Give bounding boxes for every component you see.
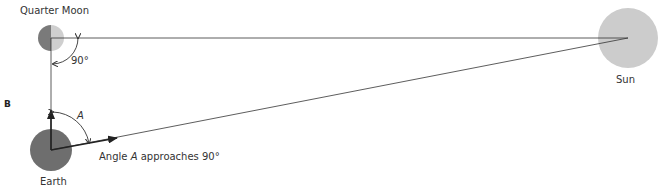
- moon-angle-label: 90°: [71, 55, 89, 66]
- caption-suffix: approaches 90°: [137, 151, 219, 162]
- moon-label: Quarter Moon: [20, 5, 89, 16]
- earth-sun-line: [51, 38, 628, 150]
- caption: Angle A approaches 90°: [99, 151, 220, 162]
- sun-label: Sun: [616, 74, 635, 85]
- panel-label: B: [4, 99, 11, 109]
- angle-a-label: A: [77, 110, 84, 121]
- earth-label: Earth: [40, 176, 67, 187]
- caption-prefix: Angle: [99, 151, 131, 162]
